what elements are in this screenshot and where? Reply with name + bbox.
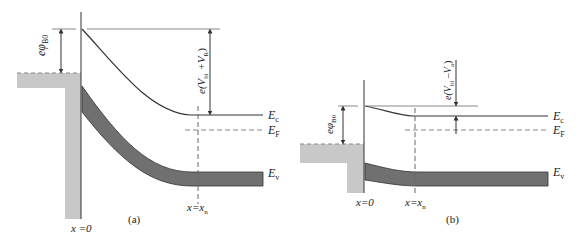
ef-label-a: EF (267, 123, 280, 139)
xn-label-b: x=xn (404, 196, 426, 211)
metal-region-a (17, 73, 81, 219)
xn-label-a: x=xn (186, 201, 208, 216)
caption-a: (a) (128, 213, 141, 226)
barrier-label-a: eφB0 (34, 35, 50, 56)
x0-label-b: x=0 (355, 196, 374, 208)
metal-region-b (300, 144, 364, 193)
ec-label-a: Ec (267, 108, 279, 124)
conduction-band-b (365, 106, 548, 116)
ef-label-b: EF (552, 123, 565, 139)
potential-label-a: e(Vbi +VR) (195, 48, 210, 94)
conduction-band-a (82, 29, 263, 115)
valence-band-a (82, 86, 263, 186)
caption-b: (b) (446, 213, 459, 226)
panel-a: eφB0 e(Vbi +VR) Ec EF Ev x =0 x=xn (a) (17, 12, 280, 234)
barrier-label-b: eφB0 (323, 114, 338, 134)
ev-label-a: Ev (267, 166, 279, 182)
potential-label-b: e(Vbi –Va) (442, 61, 456, 100)
x0-label-a: x =0 (70, 222, 92, 234)
schottky-band-diagram: eφB0 e(Vbi +VR) Ec EF Ev x =0 x=xn (a) (0, 0, 581, 240)
ev-label-b: Ev (552, 165, 564, 181)
panel-b: eφB0 e(Vbi –Va) Ec EF Ev x=0 x=xn (b) (300, 60, 565, 226)
valence-band-b (365, 163, 548, 186)
